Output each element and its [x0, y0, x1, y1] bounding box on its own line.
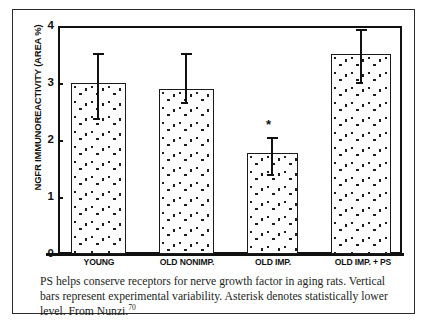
- errorbar-stem-old-nonimp: [185, 53, 187, 104]
- y-tick-label-3: 3: [38, 77, 54, 89]
- y-tick-mark-4: [58, 26, 63, 28]
- errorbar-cap-upper-young: [93, 53, 104, 55]
- errorbar-stem-young: [97, 53, 99, 120]
- y-tick-label-4: 4: [38, 20, 54, 32]
- x-axis-label-old-imp-plus-ps: OLD IMP. + PS: [323, 257, 403, 267]
- errorbar-cap-lower-young: [93, 118, 100, 120]
- significance-asterisk-old-imp: *: [266, 118, 271, 131]
- y-tick-label-2: 2: [38, 134, 54, 146]
- y-tick-mark-1: [58, 197, 63, 199]
- bar-old-nonimp: [159, 89, 214, 254]
- x-axis-label-old-nonimp: OLD NONIMP.: [149, 257, 225, 267]
- errorbar-cap-upper-old-imp-plus-ps: [356, 29, 367, 31]
- y-tick-mark-0: [58, 254, 63, 256]
- caption-line-1: PS helps conserve receptors for nerve gr…: [40, 275, 323, 288]
- figure-caption: PS helps conserve receptors for nerve gr…: [40, 274, 396, 320]
- caption-reference-number: 70: [128, 304, 136, 313]
- y-tick-mark-3: [58, 83, 63, 85]
- y-axis-title: NGFR IMMUNOREACTIVITY (AREA %): [32, 8, 43, 208]
- x-axis-label-old-imp: OLD IMP.: [239, 257, 307, 267]
- y-tick-mark-2: [58, 140, 63, 142]
- chart-plot-area: NGFR IMMUNOREACTIVITY (AREA %) 4 3 2 1 0…: [13, 10, 416, 262]
- y-tick-label-0: 0: [38, 248, 54, 260]
- figure-panel: NGFR IMMUNOREACTIVITY (AREA %) 4 3 2 1 0…: [12, 9, 415, 314]
- errorbar-cap-lower-old-imp-plus-ps: [356, 82, 363, 84]
- bar-old-imp-plus-ps: [331, 54, 391, 254]
- errorbar-cap-lower-old-nonimp: [181, 102, 188, 104]
- y-tick-label-1: 1: [38, 191, 54, 203]
- errorbar-cap-upper-old-imp: [267, 137, 278, 139]
- errorbar-stem-old-imp-plus-ps: [360, 29, 362, 84]
- errorbar-stem-old-imp: [271, 137, 273, 176]
- errorbar-cap-upper-old-nonimp: [181, 53, 192, 55]
- x-axis-label-young: YOUNG: [68, 257, 130, 267]
- errorbar-cap-lower-old-imp: [267, 174, 274, 176]
